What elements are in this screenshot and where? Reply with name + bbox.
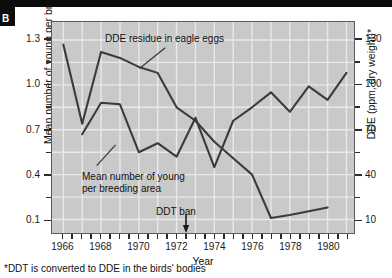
x-tick-1977.0 xyxy=(271,234,273,239)
y-tick-right-minor-55 xyxy=(355,152,360,154)
x-tick-1973.5 xyxy=(204,234,206,239)
x-tick-label-1: 1968 xyxy=(80,242,120,252)
x-tick-1972.0 xyxy=(176,234,178,239)
y-tick-right-minor-85 xyxy=(355,106,360,108)
y-tick-left-major-0 xyxy=(44,38,51,40)
x-tick-1976.5 xyxy=(261,234,263,239)
x-tick-label-3: 1972 xyxy=(156,242,196,252)
x-tick-label-6: 1978 xyxy=(270,242,310,252)
x-tick-1973.0 xyxy=(195,234,197,239)
panel-letter-box: B xyxy=(0,6,15,26)
x-tick-1966.0 xyxy=(62,234,64,239)
y-tick-right-minor-25 xyxy=(355,197,360,199)
y-tick-label-left-0: 1.3 xyxy=(10,34,40,44)
plot-area xyxy=(51,21,355,234)
y-tick-label-left-4: 0.1 xyxy=(10,215,40,225)
y-tick-label-right-0: 130 xyxy=(365,34,392,44)
x-tick-label-5: 1976 xyxy=(232,242,272,252)
x-tick-1980.0 xyxy=(328,234,330,239)
y-tick-left-minor-25 xyxy=(46,197,51,199)
x-tick-label-7: 1980 xyxy=(308,242,348,252)
x-tick-1969.5 xyxy=(128,234,130,239)
x-tick-1974.5 xyxy=(223,234,225,239)
x-tick-1978.5 xyxy=(299,234,301,239)
y-tick-right-major-0 xyxy=(355,38,362,40)
y-tick-label-right-4: 10 xyxy=(365,215,392,225)
figure-footnote: *DDT is converted to DDE in the birds' b… xyxy=(4,263,206,274)
y-tick-label-left-3: 0.4 xyxy=(10,170,40,180)
y-tick-right-major-4 xyxy=(355,220,362,222)
x-tick-1970.5 xyxy=(147,234,149,239)
annotation-leaders xyxy=(52,22,354,233)
y-tick-right-major-1 xyxy=(355,84,362,86)
x-tick-1967.0 xyxy=(81,234,83,239)
y-tick-label-left-2: 0.7 xyxy=(10,125,40,135)
y-tick-label-right-3: 40 xyxy=(365,170,392,180)
top-black-band xyxy=(0,0,392,7)
x-tick-1975.0 xyxy=(233,234,235,239)
x-tick-1974.0 xyxy=(214,234,216,239)
x-tick-1969.0 xyxy=(119,234,121,239)
x-tick-1981.0 xyxy=(347,234,349,239)
x-tick-1978.0 xyxy=(290,234,292,239)
x-tick-1975.5 xyxy=(242,234,244,239)
x-tick-1972.5 xyxy=(185,234,187,239)
y-tick-label-right-2: 70 xyxy=(365,125,392,135)
x-tick-1971.5 xyxy=(166,234,168,239)
y-tick-right-major-3 xyxy=(355,174,362,176)
x-tick-1967.5 xyxy=(90,234,92,239)
x-tick-label-4: 1974 xyxy=(194,242,234,252)
x-tick-1980.5 xyxy=(337,234,339,239)
annotation-dde-residue: DDE residue in eagle eggs xyxy=(105,33,224,45)
x-tick-1970.0 xyxy=(138,234,140,239)
x-tick-1979.5 xyxy=(318,234,320,239)
y-tick-label-left-1: 1.0 xyxy=(10,79,40,89)
annotation-mean-young-line2: per breeding area xyxy=(82,183,185,195)
y-tick-left-major-1 xyxy=(44,84,51,86)
x-tick-1966.5 xyxy=(71,234,73,239)
y-tick-left-minor-115 xyxy=(46,61,51,63)
y-tick-left-minor-55 xyxy=(46,152,51,154)
x-tick-1977.5 xyxy=(280,234,282,239)
x-tick-1971.0 xyxy=(157,234,159,239)
x-tick-1968.5 xyxy=(109,234,111,239)
x-tick-1979.0 xyxy=(309,234,311,239)
x-tick-1968.0 xyxy=(100,234,102,239)
x-tick-label-2: 1970 xyxy=(118,242,158,252)
y-tick-right-minor-115 xyxy=(355,61,360,63)
annotation-mean-young: Mean number of young per breeding area xyxy=(82,171,185,194)
x-tick-label-0: 1966 xyxy=(42,242,82,252)
y-tick-left-major-3 xyxy=(44,174,51,176)
y-tick-left-major-4 xyxy=(44,220,51,222)
figure-panel-b: B Mean number of young per breeding area… xyxy=(0,0,392,278)
y-tick-right-major-2 xyxy=(355,129,362,131)
y-tick-left-major-2 xyxy=(44,129,51,131)
x-tick-1976.0 xyxy=(252,234,254,239)
y-tick-label-right-1: 100 xyxy=(365,79,392,89)
y-tick-left-minor-85 xyxy=(46,106,51,108)
panel-letter: B xyxy=(2,13,14,24)
annotation-ddt-ban: DDT ban xyxy=(156,206,196,218)
annotation-mean-young-line1: Mean number of young xyxy=(82,171,185,183)
